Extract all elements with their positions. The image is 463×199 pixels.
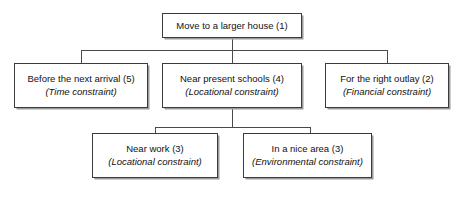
node-title: Before the next arrival (5): [27, 73, 134, 85]
node-title: For the right outlay (2): [340, 73, 433, 85]
node-subtitle: (Time constraint): [45, 86, 116, 98]
node-title: Near present schools (4): [180, 73, 284, 85]
node-title: Near work (3): [126, 143, 184, 155]
hierarchy-diagram: Move to a larger house (1) Before the ne…: [0, 0, 463, 199]
node-locational-work[interactable]: Near work (3) (Locational constraint): [92, 133, 218, 178]
node-title: Move to a larger house (1): [176, 20, 287, 32]
node-root[interactable]: Move to a larger house (1): [162, 13, 302, 38]
node-title: In a nice area (3): [272, 143, 344, 155]
node-time-constraint[interactable]: Before the next arrival (5) (Time constr…: [14, 63, 148, 108]
node-financial-outlay[interactable]: For the right outlay (2) (Financial cons…: [325, 63, 449, 108]
node-subtitle: (Locational constraint): [108, 156, 201, 168]
node-subtitle: (Financial constraint): [343, 86, 431, 98]
node-locational-schools[interactable]: Near present schools (4) (Locational con…: [162, 63, 302, 108]
node-environmental-area[interactable]: In a nice area (3) (Environmental constr…: [243, 133, 372, 178]
node-subtitle: (Environmental constraint): [252, 156, 363, 168]
node-subtitle: (Locational constraint): [185, 86, 278, 98]
